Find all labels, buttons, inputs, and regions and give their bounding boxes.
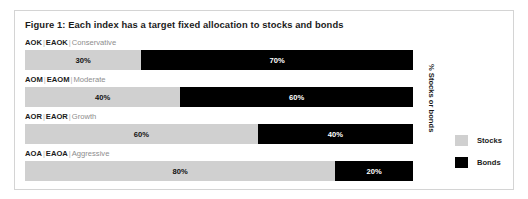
chart-legend: Stocks Bonds (455, 129, 513, 173)
row-ticker-secondary: EAOA (46, 149, 68, 158)
row-label: AOK|EAOK|Conservative (25, 36, 116, 49)
chart-plot-area: AOK|EAOK|Conservative 30% 70% AOM|EAOM|M… (25, 36, 423, 184)
row-label: AOA|EAOA|Aggressive (25, 147, 109, 160)
legend-label-stocks: Stocks (477, 136, 502, 145)
row-ticker-primary: AOA (25, 149, 42, 158)
figure-card: Figure 1: Each index has a target fixed … (14, 10, 514, 190)
bar-segment-stocks: 40% (25, 87, 180, 107)
bonds-swatch-icon (455, 157, 468, 168)
legend-item-stocks: Stocks (455, 129, 513, 151)
bar-segment-stocks: 30% (25, 50, 141, 70)
stacked-bar: 30% 70% (25, 50, 413, 70)
bar-segment-stocks: 60% (25, 124, 258, 144)
row-descriptor: Growth (72, 112, 96, 121)
row-label: AOM|EAOM|Moderate (25, 73, 106, 86)
y-axis-label: % Stocks or bonds (424, 44, 438, 152)
bar-segment-stocks: 80% (25, 161, 335, 181)
figure-title: Figure 1: Each index has a target fixed … (25, 19, 344, 30)
chart-row: AOM|EAOM|Moderate 40% 60% (25, 73, 413, 109)
bar-segment-bonds: 20% (335, 161, 413, 181)
row-ticker-primary: AOK (25, 38, 42, 47)
chart-row: AOK|EAOK|Conservative 30% 70% (25, 36, 413, 72)
y-axis-label-text: % Stocks or bonds (427, 64, 436, 132)
chart-row: AOA|EAOA|Aggressive 80% 20% (25, 147, 413, 183)
row-ticker-secondary: EAOK (46, 38, 68, 47)
stacked-bar: 60% 40% (25, 124, 413, 144)
stacked-bar: 80% 20% (25, 161, 413, 181)
row-descriptor: Aggressive (72, 149, 110, 158)
row-descriptor: Moderate (73, 75, 105, 84)
legend-item-bonds: Bonds (455, 151, 513, 173)
bar-segment-bonds: 70% (141, 50, 413, 70)
bar-segment-bonds: 60% (180, 87, 413, 107)
row-label: AOR|EAOR|Growth (25, 110, 96, 123)
legend-label-bonds: Bonds (477, 158, 501, 167)
bar-segment-bonds: 40% (258, 124, 413, 144)
row-ticker-secondary: EAOR (46, 112, 68, 121)
row-ticker-primary: AOM (25, 75, 43, 84)
stocks-swatch-icon (455, 135, 468, 146)
stacked-bar: 40% 60% (25, 87, 413, 107)
row-ticker-primary: AOR (25, 112, 42, 121)
row-ticker-secondary: EAOM (47, 75, 70, 84)
row-descriptor: Conservative (72, 38, 116, 47)
chart-row: AOR|EAOR|Growth 60% 40% (25, 110, 413, 146)
